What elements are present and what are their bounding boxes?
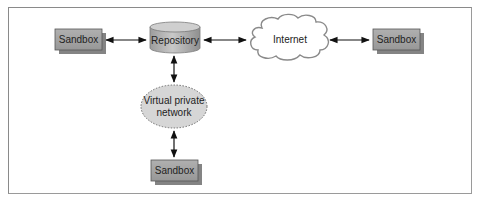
internet-node: Internet xyxy=(251,14,329,60)
repository-node: Repository xyxy=(150,22,200,53)
sandbox-right-label: Sandbox xyxy=(377,34,416,45)
internet-label: Internet xyxy=(273,34,307,45)
sandbox-bottom-label: Sandbox xyxy=(155,165,194,176)
vpn-label-line2: network xyxy=(156,107,192,118)
sandbox-left-node: Sandbox xyxy=(55,29,106,54)
repository-label: Repository xyxy=(151,35,199,46)
sandbox-left-label: Sandbox xyxy=(59,34,98,45)
cylinder-top xyxy=(150,22,200,32)
sandbox-right-node: Sandbox xyxy=(373,29,424,54)
vpn-node: Virtual private network xyxy=(141,85,207,128)
sandbox-bottom-node: Sandbox xyxy=(151,160,202,185)
architecture-diagram: Sandbox Repository Internet Sandbox Virt… xyxy=(0,0,482,202)
vpn-label-line1: Virtual private xyxy=(144,95,205,106)
